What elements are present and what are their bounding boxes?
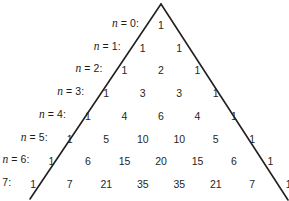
- pascal-cell: 10: [137, 131, 149, 147]
- pascal-cell: 35: [173, 176, 185, 192]
- pascal-row-cells: 1331: [0, 85, 289, 101]
- pascal-cell: 7: [67, 176, 73, 192]
- pascal-cell: 7: [249, 176, 255, 192]
- triangle-left-edge: [30, 4, 161, 199]
- pascals-triangle-figure: n = 0:1n = 1:11n = 2:121n = 3:1331n = 4:…: [0, 0, 289, 201]
- triangle-right-edge: [161, 4, 288, 200]
- pascal-row: n = 1:11: [0, 40, 289, 56]
- pascal-cell: 4: [122, 108, 128, 124]
- pascal-cell: 21: [210, 176, 222, 192]
- pascal-cell: 1: [67, 131, 73, 147]
- pascal-cell: 35: [137, 176, 149, 192]
- pascal-cell: 15: [119, 153, 131, 169]
- pascal-row: n = 0:1: [0, 17, 289, 33]
- pascal-cell: 6: [85, 153, 91, 169]
- pascal-cell: 5: [213, 131, 219, 147]
- pascal-cell: 4: [195, 108, 201, 124]
- pascal-cell: 1: [249, 131, 255, 147]
- pascal-cell: 1: [286, 176, 289, 192]
- pascal-row-cells: 11: [0, 40, 289, 56]
- pascal-row: n = 2:121: [0, 62, 289, 78]
- pascal-cell: 6: [158, 108, 164, 124]
- pascal-cell: 5: [103, 131, 109, 147]
- pascal-cell: 1: [231, 108, 237, 124]
- pascal-row-cells: 1615201561: [0, 153, 289, 169]
- pascal-cell: 1: [213, 85, 219, 101]
- pascal-cell: 10: [173, 131, 185, 147]
- pascal-cell: 1: [140, 40, 146, 56]
- pascal-cell: 20: [155, 153, 167, 169]
- pascal-cell: 6: [231, 153, 237, 169]
- pascal-cell: 1: [158, 17, 164, 33]
- pascal-cell: 3: [140, 85, 146, 101]
- pascal-row-cells: 15101051: [0, 131, 289, 147]
- pascal-row: n = 4:14641: [0, 108, 289, 124]
- pascal-row: n = 3:1331: [0, 85, 289, 101]
- pascal-cell: 1: [122, 62, 128, 78]
- pascal-cell: 1: [195, 62, 201, 78]
- pascal-row-cells: 172135352171: [0, 176, 289, 192]
- pascal-cell: 1: [103, 85, 109, 101]
- pascal-row: n = 5:15101051: [0, 131, 289, 147]
- pascal-cell: 1: [30, 176, 36, 192]
- pascal-row-cells: 121: [0, 62, 289, 78]
- pascal-cell: 1: [268, 153, 274, 169]
- pascal-cell: 2: [158, 62, 164, 78]
- pascal-row: n = 6:1615201561: [0, 153, 289, 169]
- pascal-cell: 1: [49, 153, 55, 169]
- pascal-cell: 1: [176, 40, 182, 56]
- pascal-row: n = 7:172135352171: [0, 176, 289, 192]
- pascal-cell: 3: [176, 85, 182, 101]
- pascal-row-cells: 14641: [0, 108, 289, 124]
- pascal-cell: 15: [192, 153, 204, 169]
- pascal-row-cells: 1: [0, 17, 289, 33]
- pascal-cell: 1: [85, 108, 91, 124]
- pascal-cell: 21: [100, 176, 112, 192]
